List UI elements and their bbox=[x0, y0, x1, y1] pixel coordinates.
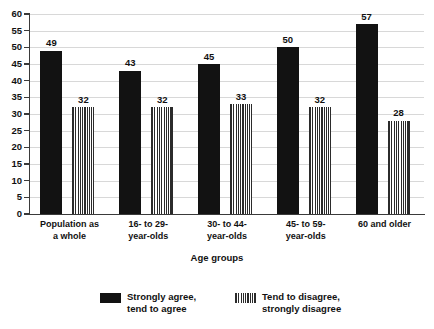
plot-area: 49324332453350325728 bbox=[30, 14, 424, 214]
bar-value-label: 28 bbox=[393, 108, 404, 118]
bar bbox=[72, 107, 94, 214]
legend-swatch-hatched-icon bbox=[235, 293, 256, 303]
bar bbox=[277, 47, 299, 214]
y-axis-tick-label: 10 bbox=[0, 176, 22, 186]
bar-value-label: 32 bbox=[157, 95, 168, 105]
legend-swatch-solid-icon bbox=[100, 293, 121, 303]
y-axis-tick-label: 35 bbox=[0, 92, 22, 102]
bar bbox=[119, 71, 141, 214]
y-axis-tick-label: 0 bbox=[0, 209, 22, 219]
chart-legend: Strongly agree, tend to agree Tend to di… bbox=[0, 291, 434, 323]
y-axis-tick-label: 55 bbox=[0, 26, 22, 36]
bar-value-label: 50 bbox=[283, 35, 294, 45]
x-axis-category-label: 60 and older bbox=[339, 219, 430, 231]
bar-chart: 051015202530354045505560 493243324533503… bbox=[0, 0, 434, 329]
bar bbox=[309, 107, 331, 214]
x-axis-category-label: 16- to 29- year-olds bbox=[103, 219, 194, 242]
legend-item-tend-to-disagree: Tend to disagree, strongly disagree bbox=[235, 291, 341, 314]
y-axis-tick-label: 45 bbox=[0, 59, 22, 69]
y-axis-tick-label: 30 bbox=[0, 109, 22, 119]
bar-value-label: 49 bbox=[46, 38, 57, 48]
bar-value-label: 57 bbox=[361, 12, 372, 22]
x-axis-category-label: 30- to 44- year-olds bbox=[182, 219, 273, 242]
bar-value-label: 33 bbox=[236, 92, 247, 102]
x-axis-category-label: Population as a whole bbox=[24, 219, 115, 242]
bar bbox=[40, 51, 62, 214]
legend-item-strongly-agree: Strongly agree, tend to agree bbox=[100, 291, 196, 314]
x-axis-title: Age groups bbox=[0, 252, 434, 263]
y-axis-tick-label: 50 bbox=[0, 42, 22, 52]
y-axis-tick-label: 60 bbox=[0, 9, 22, 19]
bar bbox=[356, 24, 378, 214]
bar bbox=[230, 104, 252, 214]
bar bbox=[388, 121, 410, 214]
bar-value-label: 32 bbox=[78, 95, 89, 105]
bar-value-label: 43 bbox=[125, 58, 136, 68]
y-axis-tick-label: 5 bbox=[0, 192, 22, 202]
bar-value-label: 32 bbox=[315, 95, 326, 105]
y-axis-tick-label: 15 bbox=[0, 159, 22, 169]
bar-value-label: 45 bbox=[204, 52, 215, 62]
y-axis-tick-label: 25 bbox=[0, 126, 22, 136]
bar bbox=[198, 64, 220, 214]
y-axis-tick-label: 40 bbox=[0, 76, 22, 86]
bar bbox=[151, 107, 173, 214]
y-axis-tick-label: 20 bbox=[0, 142, 22, 152]
x-axis-category-label: 45- to 59- year-olds bbox=[260, 219, 351, 242]
legend-label: Tend to disagree, strongly disagree bbox=[262, 291, 341, 314]
legend-label: Strongly agree, tend to agree bbox=[127, 291, 196, 314]
